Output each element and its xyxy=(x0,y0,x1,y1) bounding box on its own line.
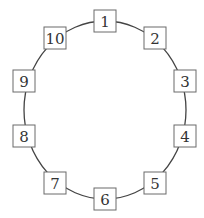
node-box-5: 5 xyxy=(144,172,166,194)
node-label: 6 xyxy=(100,191,110,209)
node-label: 7 xyxy=(50,175,60,193)
node-label: 5 xyxy=(150,175,160,193)
node-label: 8 xyxy=(19,128,29,146)
node-label: 4 xyxy=(180,128,190,146)
node-box-7: 7 xyxy=(44,172,66,194)
node-label: 1 xyxy=(100,13,110,31)
node-label: 2 xyxy=(150,30,160,48)
node-box-4: 4 xyxy=(174,125,196,147)
circle-diagram: 12345678910 xyxy=(0,0,204,218)
node-label: 3 xyxy=(180,73,190,91)
node-box-2: 2 xyxy=(144,27,166,49)
node-box-10: 10 xyxy=(44,27,66,49)
node-box-8: 8 xyxy=(13,125,35,147)
node-box-6: 6 xyxy=(94,188,116,210)
node-box-1: 1 xyxy=(94,10,116,32)
node-label: 10 xyxy=(45,30,64,48)
node-box-9: 9 xyxy=(13,70,35,92)
node-label: 9 xyxy=(19,73,29,91)
node-box-3: 3 xyxy=(174,70,196,92)
